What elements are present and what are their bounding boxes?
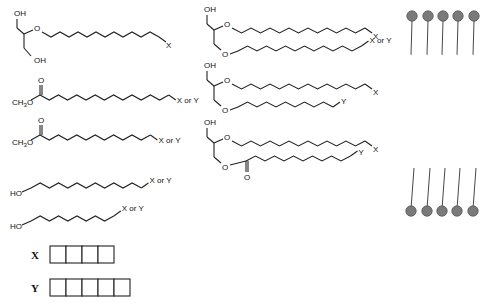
terminal-group-label: X or Y [370, 36, 393, 45]
lipid-top [418, 11, 433, 105]
oxygen-label: O [222, 163, 228, 172]
hydroxyl-label: HO [10, 222, 22, 231]
bond [214, 44, 221, 50]
alkyl-chain [238, 102, 333, 107]
terminal-group-label: Y [359, 148, 365, 157]
legend-unit-box [66, 246, 82, 263]
alkyl-chain [238, 46, 362, 51]
alkyl-chain [42, 32, 159, 37]
tail-link [442, 168, 445, 209]
lipid-bottom [436, 118, 447, 216]
molecule-8: OHOXOOY [204, 118, 379, 182]
bond [17, 28, 24, 34]
carbonyl-oxygen-label: O [38, 116, 44, 125]
legend-unit-box [66, 279, 82, 296]
lipid-top [448, 11, 463, 105]
alkyl-chain [40, 135, 150, 140]
bond [214, 82, 223, 86]
bond [214, 157, 221, 163]
lipid-top [433, 11, 448, 105]
alkyl-chain [40, 95, 169, 100]
legend-unit-box [50, 246, 66, 263]
bond [159, 37, 166, 42]
tail-link [427, 21, 428, 55]
alkyl-chain [31, 216, 114, 221]
methoxy-label: CH3O [12, 98, 33, 108]
hydroxyl-label: OH [204, 118, 216, 127]
alkyl-chain [232, 84, 365, 89]
tail-link [457, 21, 458, 55]
bond [150, 135, 157, 140]
diagram-canvas: OHOHOXCH3OOX or YCH3OOX or YHOX or YHOX … [0, 0, 496, 305]
lipid-head [469, 11, 479, 21]
terminal-group-label: X or Y [122, 204, 145, 213]
molecule-6: OHOXOX or Y [204, 5, 392, 59]
lipid-head [438, 11, 448, 21]
tail-link [411, 168, 414, 209]
carbonyl-oxygen-label: O [244, 173, 250, 182]
lipid-top [464, 11, 479, 105]
bond [230, 107, 238, 110]
legend-unit-box [114, 279, 130, 296]
alkyl-chain [232, 141, 365, 146]
bond [22, 188, 31, 192]
carbonyl-oxygen-label: O [38, 76, 44, 85]
terminal-group-label: X [373, 88, 379, 97]
lipid-head [407, 11, 417, 21]
lipid-head [422, 206, 432, 216]
lipid-bottom [467, 118, 478, 216]
legend-unit-box [98, 246, 114, 263]
molecule-5: HOX or Y [10, 204, 145, 231]
terminal-group-label: X [373, 145, 379, 154]
bond [214, 26, 223, 30]
terminal-group-label: X [166, 41, 172, 50]
alkyl-chain [246, 156, 351, 161]
lipid-head [423, 11, 433, 21]
lipid-head [406, 206, 416, 216]
bond [214, 100, 221, 106]
molecule-2: CH3OOX or Y [12, 76, 200, 108]
molecule-4: HOX or Y [10, 176, 172, 198]
bond [230, 161, 246, 165]
bond [114, 211, 121, 216]
tail-link [411, 21, 412, 55]
bond [169, 95, 176, 100]
lipid-head [468, 206, 478, 216]
lipid-bottom [451, 118, 462, 216]
legend-symbol-label: Y [31, 282, 39, 294]
lipid-head [437, 206, 447, 216]
oxygen-label: O [224, 133, 230, 142]
oxygen-label: O [222, 106, 228, 115]
tail-link [473, 168, 476, 209]
molecule-7: OHOXOY [204, 61, 379, 115]
bond [365, 28, 372, 33]
terminal-group-label: Y [341, 97, 347, 106]
bond [333, 102, 340, 107]
bond [207, 24, 214, 30]
bond [24, 30, 33, 34]
legend-unit-box [82, 246, 98, 263]
lipid-bottom [405, 118, 416, 216]
lipid-head [453, 11, 463, 21]
hydroxyl-label: HO [10, 189, 22, 198]
hydroxyl-label: OH [204, 5, 216, 14]
bond [365, 84, 372, 89]
molecule-1: OHOHOX [14, 9, 172, 65]
bond [207, 80, 214, 86]
alkyl-chain [31, 183, 141, 188]
bond [214, 139, 223, 143]
bond [362, 41, 369, 46]
hydroxyl-label: OH [14, 9, 26, 18]
legend-y: Y [31, 279, 130, 296]
alkyl-chain [232, 28, 365, 33]
tail-link [457, 168, 460, 209]
oxygen-label: O [34, 24, 40, 33]
bond [365, 141, 372, 146]
legend-unit-box [98, 279, 114, 296]
bond [141, 183, 148, 188]
methoxy-label: CH3O [12, 138, 33, 148]
oxygen-label: O [222, 50, 228, 59]
legend-unit-box [82, 279, 98, 296]
terminal-group-label: X or Y [177, 96, 200, 105]
bond [24, 48, 31, 56]
